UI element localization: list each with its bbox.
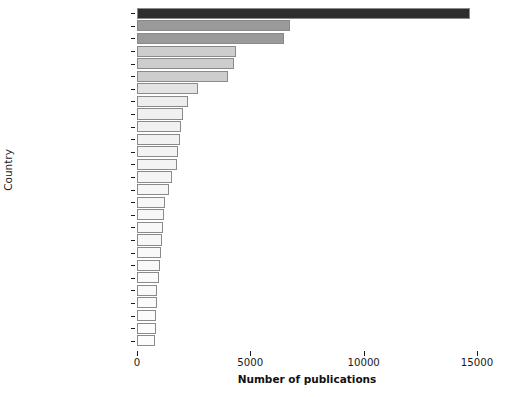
bar-row: United States — [137, 8, 477, 19]
x-tick-label: 5000 — [237, 357, 263, 368]
bar — [137, 209, 164, 220]
y-tick-mark — [131, 215, 135, 216]
bar-row: China — [137, 33, 477, 44]
bar-rows: United StatesUnited KingdomChinaGermanyA… — [137, 7, 477, 347]
y-tick-mark — [131, 127, 135, 128]
bar — [137, 146, 178, 157]
y-tick-mark — [131, 13, 135, 14]
y-tick-mark — [131, 303, 135, 304]
bar-chart: Country United StatesUnited KingdomChina… — [0, 0, 507, 397]
plot-area: United StatesUnited KingdomChinaGermanyA… — [137, 7, 477, 347]
bar — [137, 96, 188, 107]
y-tick-mark — [131, 278, 135, 279]
x-tick-mark — [137, 351, 138, 356]
y-tick-mark — [131, 316, 135, 317]
y-tick-mark — [131, 202, 135, 203]
x-axis-title: Number of publications — [137, 373, 477, 385]
y-tick-mark — [131, 101, 135, 102]
bar-row: Russian Federation — [137, 222, 477, 233]
bar-row: Finland — [137, 272, 477, 283]
y-tick-mark — [131, 190, 135, 191]
x-tick-mark — [364, 351, 365, 356]
x-tick-mark — [250, 351, 251, 356]
bar — [137, 285, 157, 296]
y-tick-mark — [131, 253, 135, 254]
bar-row: Sweden — [137, 146, 477, 157]
bar-row: Switzerland — [137, 171, 477, 182]
bar-row: Brazil — [137, 197, 477, 208]
bar — [137, 184, 169, 195]
y-tick-mark — [131, 341, 135, 342]
y-tick-mark — [131, 139, 135, 140]
y-tick-mark — [131, 152, 135, 153]
y-tick-mark — [131, 89, 135, 90]
bar — [137, 108, 183, 119]
bar-row: France — [137, 83, 477, 94]
bar-row: New Zealand — [137, 285, 477, 296]
bar — [137, 247, 161, 258]
bar — [137, 234, 162, 245]
bar — [137, 159, 177, 170]
bar-row: Denmark — [137, 234, 477, 245]
bar-row: Australia — [137, 58, 477, 69]
bar-row: Netherlands — [137, 108, 477, 119]
bar-row: Belgium — [137, 335, 477, 346]
bar — [137, 121, 181, 132]
bar — [137, 171, 172, 182]
bar-row: Mexico — [137, 323, 477, 334]
bar-row: Norway — [137, 184, 477, 195]
bar — [137, 323, 156, 334]
y-tick-mark — [131, 114, 135, 115]
bar — [137, 335, 155, 346]
bar — [137, 297, 157, 308]
bar-row: India — [137, 134, 477, 145]
bar — [137, 46, 236, 57]
y-tick-mark — [131, 240, 135, 241]
x-axis: 050001000015000 — [137, 351, 477, 391]
y-tick-mark — [131, 177, 135, 178]
bar — [137, 33, 284, 44]
x-tick-label: 15000 — [461, 357, 493, 368]
bar — [137, 83, 198, 94]
y-axis-title-text: Country — [2, 130, 14, 210]
bar — [137, 272, 159, 283]
y-tick-mark — [131, 227, 135, 228]
x-tick-label: 0 — [134, 357, 140, 368]
y-tick-mark — [131, 76, 135, 77]
y-tick-mark — [131, 290, 135, 291]
y-tick-mark — [131, 265, 135, 266]
bar — [137, 260, 160, 271]
bar — [137, 310, 156, 321]
y-tick-mark — [131, 328, 135, 329]
bar — [137, 71, 228, 82]
bar-row: Iran — [137, 297, 477, 308]
bar — [137, 8, 470, 19]
bar-row: Italy — [137, 121, 477, 132]
y-tick-mark — [131, 51, 135, 52]
bar-row: Spain — [137, 96, 477, 107]
bar-row: Austria — [137, 260, 477, 271]
bar — [137, 58, 234, 69]
bar-row: Japan — [137, 159, 477, 170]
bar — [137, 197, 165, 208]
bar — [137, 134, 180, 145]
y-tick-mark — [131, 26, 135, 27]
bar-row: South Korea — [137, 247, 477, 258]
bar-row: Canada — [137, 71, 477, 82]
y-tick-mark — [131, 164, 135, 165]
y-tick-mark — [131, 64, 135, 65]
bar-row: United Kingdom — [137, 20, 477, 31]
y-axis-title: Country — [2, 68, 14, 148]
bar-row: Portugal — [137, 310, 477, 321]
y-tick-mark — [131, 38, 135, 39]
x-tick-mark — [477, 351, 478, 356]
bar — [137, 222, 163, 233]
bar-row: South Africa — [137, 209, 477, 220]
x-tick-label: 10000 — [347, 357, 379, 368]
bar — [137, 20, 290, 31]
bar-row: Germany — [137, 46, 477, 57]
